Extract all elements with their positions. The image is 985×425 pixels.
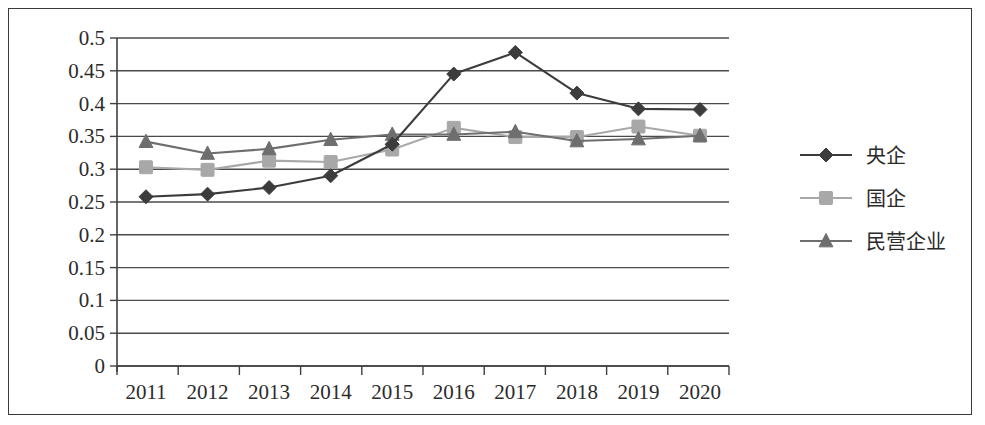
legend-item-1[interactable]: 国企 — [800, 187, 906, 211]
y-tick-label: 0.05 — [68, 321, 105, 345]
data-point — [262, 181, 276, 195]
x-tick-label: 2012 — [187, 380, 229, 404]
y-tick-label: 0 — [95, 354, 106, 378]
y-axis — [110, 38, 117, 372]
y-tick-label: 0.15 — [68, 256, 105, 280]
y-tick-label: 0.2 — [79, 223, 105, 247]
x-tick-labels: 2011201220132014201520162017201820192020 — [125, 380, 721, 404]
series-line — [146, 52, 700, 196]
data-point — [201, 163, 214, 176]
x-tick-label: 2016 — [433, 380, 475, 404]
data-series — [139, 45, 707, 203]
y-tick-labels: 00.050.10.150.20.250.30.350.40.450.5 — [68, 26, 105, 378]
x-tick-label: 2018 — [556, 380, 598, 404]
data-point — [140, 161, 153, 174]
series-square — [140, 120, 707, 176]
x-axis — [117, 366, 729, 375]
series-diamond — [139, 45, 707, 203]
x-tick-label: 2013 — [248, 380, 290, 404]
chart-legend: 央企国企民营企业 — [800, 144, 946, 254]
y-tick-label: 0.45 — [68, 59, 105, 83]
line-chart: 00.050.10.150.20.250.30.350.40.450.5 201… — [0, 0, 985, 425]
data-point — [263, 154, 276, 167]
y-tick-label: 0.1 — [79, 288, 105, 312]
legend-label: 国企 — [866, 187, 906, 211]
x-tick-label: 2015 — [371, 380, 413, 404]
y-tick-label: 0.5 — [79, 26, 105, 50]
series-line — [146, 132, 700, 154]
y-tick-label: 0.35 — [68, 124, 105, 148]
y-tick-label: 0.4 — [79, 92, 106, 116]
data-point — [570, 86, 584, 100]
data-point — [508, 45, 522, 59]
legend-label: 央企 — [866, 144, 906, 168]
data-point — [693, 103, 707, 117]
x-tick-label: 2020 — [679, 380, 721, 404]
data-point — [324, 155, 337, 168]
y-tick-label: 0.25 — [68, 190, 105, 214]
x-tick-label: 2014 — [310, 380, 353, 404]
x-tick-label: 2011 — [125, 380, 166, 404]
legend-marker-diamond — [819, 148, 833, 162]
legend-item-2[interactable]: 民营企业 — [800, 230, 946, 254]
legend-label: 民营企业 — [866, 230, 946, 254]
data-point — [201, 187, 215, 201]
gridlines — [117, 38, 729, 366]
x-tick-label: 2017 — [494, 380, 536, 404]
y-tick-label: 0.3 — [79, 157, 105, 181]
x-tick-label: 2019 — [617, 380, 659, 404]
data-point — [324, 169, 338, 183]
legend-item-0[interactable]: 央企 — [800, 144, 906, 168]
legend-marker-square — [820, 192, 833, 205]
series-line — [146, 127, 700, 170]
